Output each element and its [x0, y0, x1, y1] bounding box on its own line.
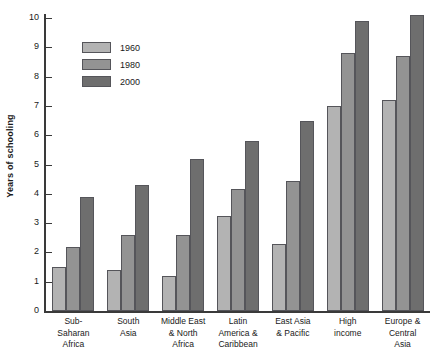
bar-group [320, 18, 375, 311]
bar-group [375, 18, 430, 311]
x-axis-category-label: Middle East& NorthAfrica [156, 316, 211, 351]
x-axis-category-label: Highincome [320, 316, 375, 351]
y-axis-tick-label: 5 [34, 159, 39, 170]
bar-2000 [300, 121, 314, 311]
x-axis-category-labels: Sub-SaharanAfricaSouthAsiaMiddle East& N… [46, 316, 430, 351]
bar-2000 [80, 197, 94, 311]
bar-1980 [231, 189, 245, 311]
y-axis-tick-label: 1 [34, 276, 39, 287]
y-axis-title-label: Years of schooling [5, 114, 15, 198]
bar-1960 [382, 100, 396, 311]
x-axis-category-label: Europe &CentralAsia [375, 316, 430, 351]
legend-label: 1980 [120, 60, 140, 70]
y-axis-tick-label: 4 [34, 188, 39, 199]
bar-1960 [107, 270, 121, 311]
bar-2000 [190, 159, 204, 311]
x-axis-line [44, 311, 430, 313]
y-axis-tick-label: 10 [29, 12, 39, 23]
bar-1960 [162, 276, 176, 311]
x-axis-category-label: SouthAsia [101, 316, 156, 351]
legend-item-2000: 2000 [82, 74, 140, 89]
bar-1960 [217, 216, 231, 311]
y-axis-tick-label: 9 [34, 41, 39, 52]
y-axis-title: Years of schooling [0, 0, 20, 312]
x-axis-category-label: East Asia& Pacific [265, 316, 320, 351]
bar-2000 [355, 21, 369, 311]
bar-1980 [176, 235, 190, 311]
bar-1960 [52, 267, 66, 311]
bar-2000 [135, 185, 149, 311]
y-axis-tick-label: 6 [34, 129, 39, 140]
legend-swatch [82, 76, 111, 87]
legend-label: 1960 [120, 43, 140, 53]
bar-1980 [396, 56, 410, 311]
bar-group [265, 18, 320, 311]
bar-1980 [341, 53, 355, 311]
bar-2000 [410, 15, 424, 311]
y-axis-tick-label: 0 [34, 305, 39, 316]
bar-1980 [286, 181, 300, 311]
bar-group [156, 18, 211, 311]
legend-swatch [82, 59, 111, 70]
bar-group [211, 18, 266, 311]
legend-label: 2000 [120, 77, 140, 87]
x-axis-category-label: LatinAmerica &Caribbean [211, 316, 266, 351]
chart-legend: 196019802000 [82, 40, 140, 91]
bar-1980 [121, 235, 135, 311]
y-axis-tick-label: 2 [34, 246, 39, 257]
legend-item-1980: 1980 [82, 57, 140, 72]
bar-chart: Years of schooling 109876543210 Sub-Saha… [0, 0, 436, 360]
bar-2000 [245, 141, 259, 311]
y-axis-tick: 0 [44, 311, 52, 312]
bar-1980 [66, 247, 80, 311]
y-axis-tick-label: 7 [34, 100, 39, 111]
bar-1960 [272, 244, 286, 311]
y-axis-tick-label: 8 [34, 71, 39, 82]
legend-swatch [82, 42, 111, 53]
bar-1960 [327, 106, 341, 311]
legend-item-1960: 1960 [82, 40, 140, 55]
y-axis-tick-label: 3 [34, 217, 39, 228]
x-axis-category-label: Sub-SaharanAfrica [46, 316, 101, 351]
